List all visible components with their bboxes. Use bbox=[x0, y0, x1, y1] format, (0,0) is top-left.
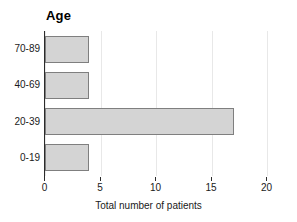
x-tick-label-15: 15 bbox=[205, 182, 216, 193]
x-tick-mark-0 bbox=[44, 177, 45, 181]
x-tick-label-5: 5 bbox=[97, 182, 103, 193]
chart-title: Age bbox=[46, 8, 71, 23]
y-tick-label-20-39: 20-39 bbox=[0, 116, 40, 127]
y-axis-line bbox=[44, 31, 45, 177]
y-tick-label-70-89: 70-89 bbox=[0, 43, 40, 54]
x-tick-mark-20 bbox=[266, 177, 267, 181]
x-axis-title: Total number of patients bbox=[0, 200, 297, 211]
x-tick-mark-5 bbox=[100, 177, 101, 181]
x-tick-label-20: 20 bbox=[261, 182, 272, 193]
bar-40-69 bbox=[45, 72, 89, 99]
plot-area bbox=[45, 31, 277, 176]
x-tick-label-0: 0 bbox=[42, 182, 48, 193]
y-tick-label-0-19: 0-19 bbox=[0, 152, 40, 163]
x-tick-mark-10 bbox=[155, 177, 156, 181]
bar-70-89 bbox=[45, 36, 89, 63]
x-tick-label-10: 10 bbox=[150, 182, 161, 193]
x-tick-mark-15 bbox=[211, 177, 212, 181]
y-tick-label-40-69: 40-69 bbox=[0, 79, 40, 90]
bar-series bbox=[45, 31, 277, 176]
bar-chart-figure: Age 0510152070-8940-6920-390-19 Total nu… bbox=[0, 0, 297, 222]
bar-0-19 bbox=[45, 144, 89, 171]
bar-20-39 bbox=[45, 108, 234, 135]
